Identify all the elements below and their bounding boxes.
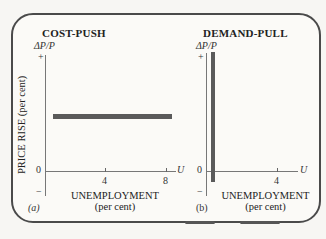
print-smudge [240,221,280,224]
panel-a-tick-4-label: 4 [102,175,107,186]
panel-a-xlabel-sub: (per cent) [60,201,170,212]
panel-a-tick-8 [166,168,167,172]
panel-a-tick-8-label: 8 [163,175,168,186]
panel-a-tag: (a) [28,202,40,213]
panel-b-x-symbol: U [300,164,307,175]
panel-a-y-axis-label: PRICE RISE (per cent) [16,76,27,174]
panel-a-minus-label: − [36,186,42,197]
cost-push-curve [53,114,172,119]
panel-a-tick-4 [105,168,106,172]
panel-a-x-axis-label: UNEMPLOYMENT (per cent) [60,190,170,212]
print-smudge [185,221,215,224]
panel-a-x-axis [45,171,176,172]
panel-a-y-symbol: ΔP/P [34,40,55,51]
panel-a-zero-label: 0 [36,164,41,175]
panel-a-y-axis [45,55,46,196]
panel-b-minus-label: − [197,186,203,197]
panel-b-x-axis-label: UNEMPLOYMENT (per cent) [218,190,313,212]
panel-b-tick-4 [277,168,278,172]
panel-b-tag: (b) [196,202,208,213]
panel-a-xlabel-main: UNEMPLOYMENT [60,190,170,201]
panel-b-x-axis [206,171,298,172]
panel-b-y-axis [206,53,207,196]
panel-a-title: COST-PUSH [42,27,106,39]
panel-b-title: DEMAND-PULL [203,27,288,39]
panel-b-xlabel-main: UNEMPLOYMENT [218,190,313,201]
demand-pull-curve [211,52,215,182]
panel-a-x-symbol: U [177,164,184,175]
panel-a-plus-label: + [38,51,44,62]
panel-b-zero-label: 0 [197,164,202,175]
panel-b-xlabel-sub: (per cent) [218,201,313,212]
panel-b-y-symbol: ΔP/P [196,40,217,51]
panel-b-plus-label: + [198,51,204,62]
panel-b-tick-4-label: 4 [274,175,279,186]
